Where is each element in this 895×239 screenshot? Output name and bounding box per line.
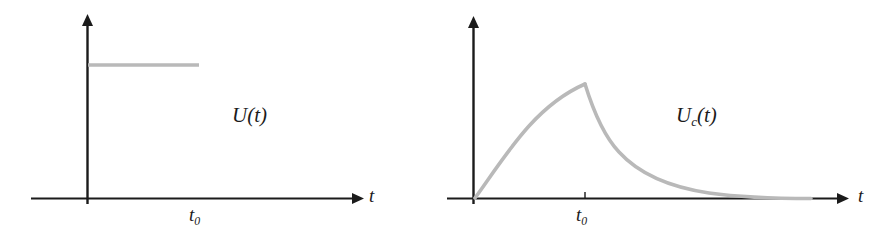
x-axis-label-step: t — [369, 186, 374, 205]
figure-root: U(t) t0 t Uc(t) t0 t — [0, 0, 895, 239]
curve-label-uc-tail: (t) — [697, 103, 717, 127]
curve-label-uc-of-t: Uc(t) — [676, 105, 717, 128]
capacitor-discharging-curve — [585, 84, 811, 199]
y-axis-step — [82, 14, 93, 204]
step-voltage-plot — [0, 0, 447, 239]
curve-label-uc-main: U — [676, 103, 691, 127]
y-axis-arrowhead-capacitor — [468, 16, 479, 28]
capacitor-voltage-plot — [447, 0, 895, 239]
x-axis-arrowhead-step — [352, 193, 364, 204]
chart-panel-step-voltage — [0, 0, 447, 239]
capacitor-charging-curve — [475, 84, 585, 198]
y-axis-arrowhead-step — [82, 14, 93, 26]
curve-label-u-main: U — [232, 103, 247, 127]
x-axis-label-capacitor: t — [858, 186, 863, 205]
x-tick-label-t0-capacitor-subscript: 0 — [581, 215, 587, 228]
x-axis-step — [31, 193, 364, 204]
curve-label-u-of-t: U(t) — [232, 105, 267, 126]
x-tick-label-t0-step: t0 — [189, 205, 200, 227]
y-axis-capacitor — [468, 16, 479, 204]
chart-panel-capacitor-voltage — [447, 0, 895, 239]
x-tick-label-t0-capacitor: t0 — [576, 205, 587, 227]
x-tick-label-t0-step-subscript: 0 — [194, 215, 200, 228]
x-axis-arrowhead-capacitor — [837, 193, 849, 204]
curve-label-u-tail: (t) — [247, 103, 267, 127]
